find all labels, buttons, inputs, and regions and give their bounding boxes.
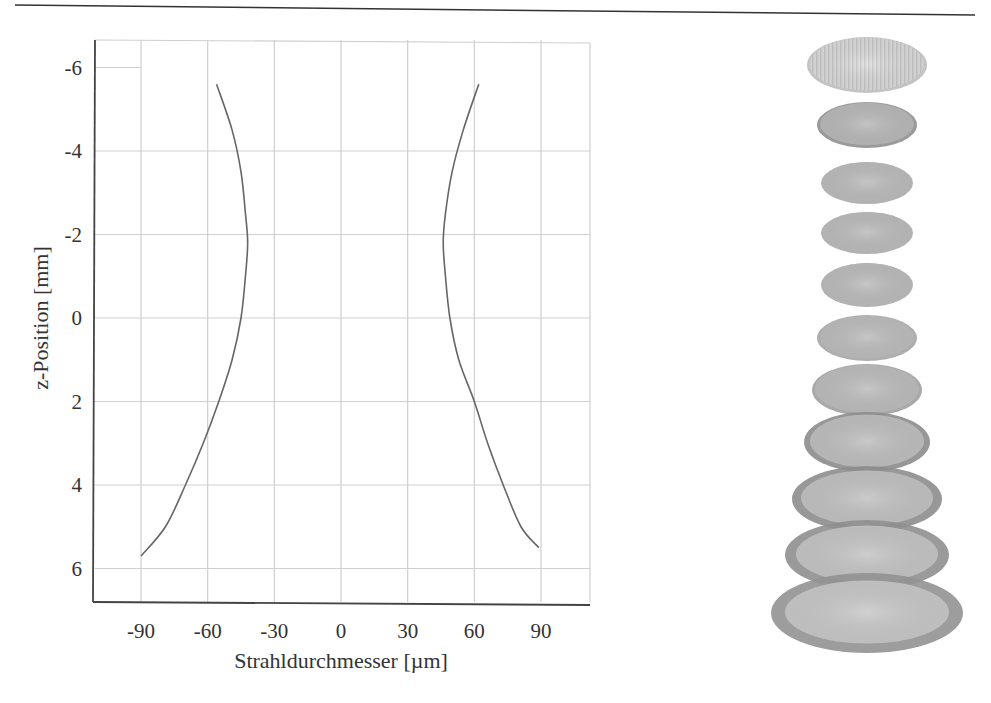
x-tick-label: 30 bbox=[397, 619, 418, 643]
x-axis-tick-labels: -90-60-300306090 bbox=[127, 619, 552, 643]
beam-caustic-chart: -90-60-300306090 -6-4-20246 Strahldurchm… bbox=[0, 0, 740, 703]
beam-profile-ellipse bbox=[821, 212, 913, 254]
series-right-beam-edge bbox=[443, 84, 539, 547]
beam-profile-ellipse bbox=[771, 573, 963, 653]
x-tick-label: -90 bbox=[127, 619, 155, 643]
x-tick-label: 90 bbox=[531, 619, 552, 643]
y-axis-line bbox=[93, 40, 95, 602]
x-tick-label: 60 bbox=[464, 619, 485, 643]
x-axis-line bbox=[93, 602, 590, 605]
y-tick-label: -2 bbox=[65, 223, 83, 247]
x-tick-label: -30 bbox=[260, 619, 288, 643]
x-axis-title: Strahldurchmesser [µm] bbox=[234, 648, 448, 673]
x-tick-label: -60 bbox=[194, 619, 222, 643]
beam-profile-stack bbox=[740, 35, 990, 685]
beam-profile-ellipse bbox=[817, 102, 917, 148]
y-axis-tick-labels: -6-4-20246 bbox=[65, 56, 83, 581]
beam-profile-ellipse bbox=[804, 412, 930, 472]
y-tick-label: -6 bbox=[65, 56, 83, 80]
beam-profile-ellipse bbox=[807, 37, 927, 93]
y-tick-label: 2 bbox=[72, 390, 83, 414]
y-tick-label: 0 bbox=[72, 306, 83, 330]
beam-profile-ellipse bbox=[821, 263, 913, 307]
beam-profile-ellipse bbox=[812, 364, 922, 416]
beam-profile-ellipse bbox=[817, 315, 917, 361]
y-tick-label: -4 bbox=[65, 139, 83, 163]
x-tick-label: 0 bbox=[336, 619, 347, 643]
beam-profile-ellipse bbox=[821, 162, 913, 204]
y-tick-label: 4 bbox=[72, 473, 83, 497]
y-tick-label: 6 bbox=[72, 557, 83, 581]
y-axis-title: z-Position [mm] bbox=[28, 246, 53, 390]
